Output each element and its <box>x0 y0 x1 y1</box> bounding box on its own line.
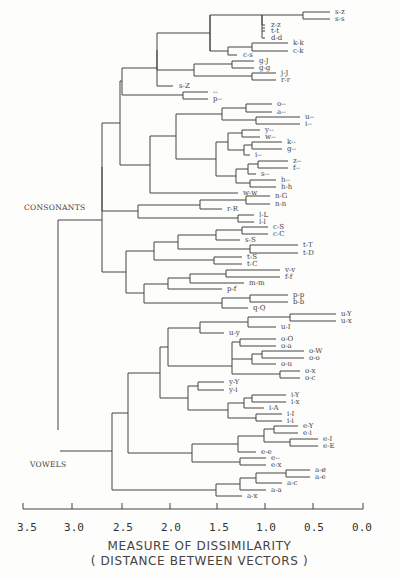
leaf-label: a-- <box>277 108 286 116</box>
leaf-label: o-c <box>305 374 316 382</box>
leaf-label: e-E <box>323 442 335 450</box>
leaf-label: t-D <box>303 249 314 257</box>
leaf-label: c-C <box>273 230 285 238</box>
leaf-label: b-b <box>293 298 304 306</box>
leaf-label: p-f <box>227 285 236 293</box>
leaf-label: n-n <box>275 200 286 208</box>
leaf-label: o-u <box>281 360 292 368</box>
leaf-label: l-l <box>259 218 266 226</box>
leaf-label: t-C <box>247 260 258 268</box>
leaf-label: r-R <box>227 205 238 213</box>
leaf-label: n-G <box>275 192 287 200</box>
leaf-label: g-- <box>287 145 296 153</box>
x-tick: 3.5 <box>17 521 37 534</box>
x-tick: 1.5 <box>209 521 229 534</box>
leaf-label: s-Z <box>179 82 190 90</box>
group-label-consonants: CONSONANTS <box>24 203 85 212</box>
x-axis <box>23 503 363 509</box>
leaf-label: a-e <box>315 473 326 481</box>
leaf-label: u-x <box>341 317 352 325</box>
leaf-label: i-- <box>305 120 312 128</box>
leaf-label: i-- <box>255 151 262 159</box>
leaf-label: h-h <box>281 183 292 191</box>
x-tick: 0.5 <box>304 521 324 534</box>
leaf-label: y-i <box>229 386 238 394</box>
leaf-label: g-g <box>259 64 270 72</box>
leaf-label: s-S <box>245 236 256 244</box>
leaf-label: w-- <box>265 133 276 141</box>
x-tick: 3.0 <box>64 521 84 534</box>
leaf-label: d-d <box>271 34 282 42</box>
leaf-label: i-x <box>291 398 300 406</box>
dendrogram <box>0 0 399 578</box>
leaf-label: o-- <box>277 100 286 108</box>
group-label-vowels: VOWELS <box>30 460 67 469</box>
x-tick: 2.0 <box>161 521 181 534</box>
x-tick: 1.0 <box>256 521 276 534</box>
leaf-label: o-a <box>281 342 292 350</box>
leaf-label: a-c <box>287 479 297 487</box>
leaf-label: f-- <box>293 164 300 172</box>
leaf-label: y-Y <box>229 378 239 386</box>
x-tick: 0.0 <box>352 521 372 534</box>
leaf-label: k-k <box>293 39 304 47</box>
x-axis-title: MEASURE OF DISSIMILARITY <box>0 539 399 553</box>
leaf-label: u-I <box>281 323 291 331</box>
leaf-label: s-- <box>261 170 269 178</box>
leaf-label: r-r <box>281 76 290 84</box>
leaf-label: i-A <box>269 404 279 412</box>
leaf-label: e-x <box>271 461 281 469</box>
leaf-label: q-Q <box>253 304 266 312</box>
x-axis-subtitle: ( DISTANCE BETWEEN VECTORS ) <box>0 554 399 568</box>
leaf-label: f-f <box>285 273 292 281</box>
leaf-label: a-x <box>247 492 258 500</box>
leaf-label: t-T <box>303 241 313 249</box>
leaf-label: i-i <box>287 417 294 425</box>
leaf-label: o-o <box>309 354 320 362</box>
leaf-label: m-m <box>249 279 265 287</box>
leaf-label: p-- <box>213 95 222 103</box>
leaf-label: s-s <box>335 15 345 23</box>
x-tick: 2.5 <box>113 521 133 534</box>
leaf-label: e-i <box>303 429 312 437</box>
leaf-label: c-s <box>243 51 253 59</box>
dendrogram-branches <box>58 12 336 496</box>
leaf-label: c-k <box>293 47 304 55</box>
leaf-label: a-a <box>271 486 282 494</box>
leaf-label: u-y <box>229 329 240 337</box>
leaf-label: w-w <box>243 189 257 197</box>
